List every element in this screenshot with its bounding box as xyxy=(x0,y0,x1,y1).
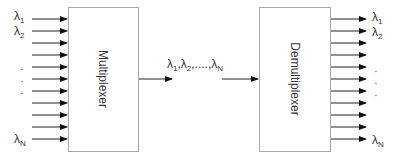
subscript: 1 xyxy=(378,17,382,26)
input-label-lambda-1: λ1 xyxy=(14,10,24,25)
output-label-lambda-n: λN xyxy=(372,134,384,149)
input-label-lambda-n: λN xyxy=(14,133,26,148)
output-arrows xyxy=(331,19,366,139)
subscript: 2 xyxy=(378,32,382,41)
subscript: 1 xyxy=(20,16,24,25)
demultiplexer-label: Demultiplexer xyxy=(288,29,302,129)
input-arrows xyxy=(32,19,67,139)
subscript: N xyxy=(20,139,26,148)
subscript: 2 xyxy=(20,31,24,40)
subscript: N xyxy=(217,64,223,73)
output-label-lambda-1: λ1 xyxy=(372,11,382,26)
input-ellipsis: ··· xyxy=(19,64,25,100)
input-label-lambda-2: λ2 xyxy=(14,25,24,40)
output-label-lambda-2: λ2 xyxy=(372,26,382,41)
separator: ,...., xyxy=(191,57,211,71)
link-wavelengths-label: λ1,λ2,....,λN xyxy=(167,58,223,73)
multiplexer-label: Multiplexer xyxy=(96,39,110,119)
diagram-canvas xyxy=(0,0,397,157)
subscript: N xyxy=(378,140,384,149)
output-ellipsis: ··· xyxy=(373,66,379,102)
